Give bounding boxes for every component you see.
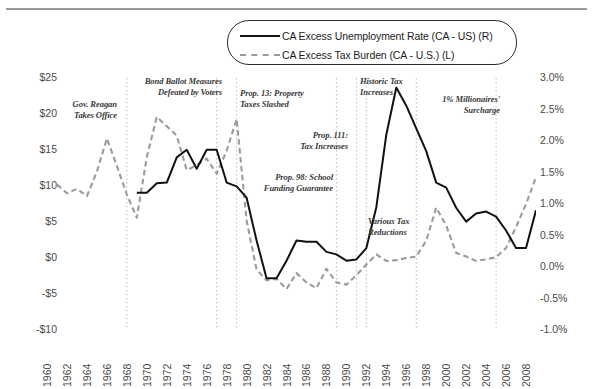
right-axis-tick-8: -1.0% xyxy=(540,323,567,335)
x-axis-tick-17: 1994 xyxy=(380,364,392,387)
right-axis-tick-5: 0.5% xyxy=(540,229,564,241)
left-axis-tick-2: $15 xyxy=(39,143,57,155)
x-axis-tick-4: 1968 xyxy=(121,364,133,387)
left-axis-tick-4: $5 xyxy=(45,215,57,227)
left-axis-tick-7: -$10 xyxy=(36,323,57,335)
annotation-prop-98-school-funding-guarantee: Prop. 98: School Funding Guarantee xyxy=(264,172,333,193)
annotation-historic-tax-increases: Historic Tax Increases xyxy=(360,76,403,97)
right-axis-tick-0: 3.0% xyxy=(540,71,564,83)
x-axis-tick-23: 2006 xyxy=(500,364,512,387)
annotation-various-tax-reductions: Various Tax Reductions xyxy=(368,216,409,237)
left-axis-tick-5: $0 xyxy=(45,251,57,263)
x-axis-tick-11: 1982 xyxy=(261,364,273,387)
x-axis-tick-18: 1996 xyxy=(400,364,412,387)
x-axis-tick-12: 1984 xyxy=(281,364,293,387)
x-axis-tick-13: 1986 xyxy=(300,364,312,387)
left-axis-tick-3: $10 xyxy=(39,179,57,191)
right-axis-tick-7: -0.5% xyxy=(540,292,567,304)
series-line-tax-burden xyxy=(57,117,536,289)
annotation-one-percent-millionaires-surcharge: 1% Millionaires' Surcharge xyxy=(442,94,500,115)
x-axis-tick-20: 2000 xyxy=(440,364,452,387)
x-axis-tick-14: 1988 xyxy=(320,364,332,387)
plot-area xyxy=(57,78,536,330)
x-axis-tick-9: 1978 xyxy=(221,364,233,387)
x-axis-tick-16: 1992 xyxy=(360,364,372,387)
right-axis-tick-6: 0.0% xyxy=(540,260,564,272)
x-axis-tick-21: 2002 xyxy=(460,364,472,387)
x-axis-tick-0: 1960 xyxy=(41,364,53,387)
x-axis-tick-8: 1976 xyxy=(201,364,213,387)
legend-label-tax-burden: CA Excess Tax Burden (CA - U.S.) (L) xyxy=(282,49,454,61)
x-axis-tick-2: 1964 xyxy=(81,364,93,387)
x-axis-tick-7: 1974 xyxy=(181,364,193,387)
plot-svg xyxy=(57,78,536,330)
legend-item-unemployment: CA Excess Unemployment Rate (CA - US) (R… xyxy=(238,26,506,45)
annotation-prop-13-property-taxes-slashed: Prop. 13: Property Taxes Slashed xyxy=(240,88,304,109)
legend-dashed-line-swatch xyxy=(238,50,282,60)
x-axis-tick-10: 1980 xyxy=(241,364,253,387)
left-axis-tick-0: $25 xyxy=(39,71,57,83)
annotation-prop-111-tax-increases: Prop. 111: Tax Increases xyxy=(300,130,348,151)
legend-item-tax-burden: CA Excess Tax Burden (CA - U.S.) (L) xyxy=(238,45,506,64)
chart-figure: CA Excess Unemployment Rate (CA - US) (R… xyxy=(0,0,593,389)
annotation-bond-ballot-measures-defeated: Bond Ballot Measures Defeated by Voters xyxy=(145,76,222,97)
x-axis-tick-1: 1962 xyxy=(61,364,73,387)
right-axis-tick-3: 1.5% xyxy=(540,166,564,178)
top-divider xyxy=(6,8,587,10)
x-axis-tick-6: 1972 xyxy=(161,364,173,387)
x-axis-tick-19: 1998 xyxy=(420,364,432,387)
right-axis-tick-2: 2.0% xyxy=(540,134,564,146)
right-axis-tick-4: 1.0% xyxy=(540,197,564,209)
x-axis-tick-3: 1966 xyxy=(101,364,113,387)
x-axis-tick-15: 1990 xyxy=(340,364,352,387)
x-axis-tick-22: 2004 xyxy=(480,364,492,387)
legend-solid-line-swatch xyxy=(238,31,282,41)
right-axis-tick-1: 2.5% xyxy=(540,103,564,115)
x-axis-tick-24: 2008 xyxy=(520,364,532,387)
annotation-gov-reagan-takes-office: Gov. Reagan Takes Office xyxy=(73,99,117,120)
x-axis-tick-5: 1970 xyxy=(141,364,153,387)
left-axis-tick-6: -$5 xyxy=(42,287,57,299)
left-axis-tick-1: $20 xyxy=(39,107,57,119)
chart-legend: CA Excess Unemployment Rate (CA - US) (R… xyxy=(227,20,517,65)
legend-label-unemployment: CA Excess Unemployment Rate (CA - US) (R… xyxy=(282,30,493,42)
event-marker-lines xyxy=(127,78,496,330)
